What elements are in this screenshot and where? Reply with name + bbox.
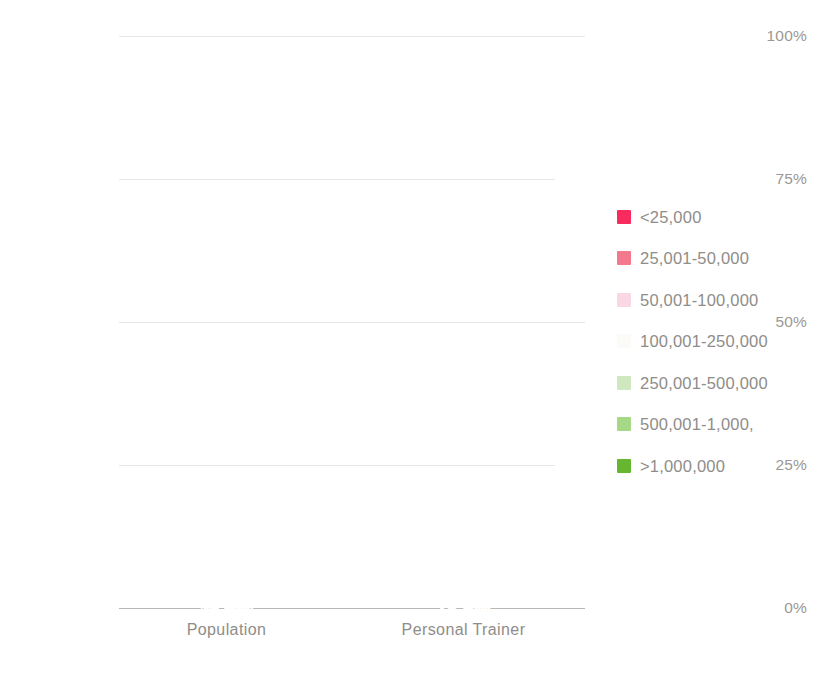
legend-swatch-icon	[617, 293, 631, 307]
x-axis-line-stub-right	[555, 608, 585, 609]
legend-item[interactable]: 50,001-100,000	[617, 279, 821, 321]
gridline-stub-right-100	[555, 36, 585, 37]
gridline-25	[133, 465, 555, 466]
legend-label: <25,000	[640, 209, 702, 226]
legend-swatch-icon	[617, 210, 631, 224]
legend-item[interactable]: 250,001-500,000	[617, 362, 821, 404]
bar-segment-value: 24,9%	[372, 598, 555, 620]
plot-area: 46,8%13,3%9,1%5,3%6,3%9,3% 15,0%12,3%11,…	[133, 36, 555, 609]
bar-segment-value: 9,3%	[133, 598, 320, 620]
y-tick-100: 100%	[717, 27, 807, 45]
legend: <25,00025,001-50,00050,001-100,000100,00…	[617, 196, 821, 487]
stacked-bar-chart: 100% 75% 50% 25% 0% 46,8%13,3%9,1%5,3%6,…	[0, 0, 821, 690]
legend-swatch-icon	[617, 459, 631, 473]
legend-item[interactable]: 100,001-250,000	[617, 321, 821, 363]
y-tick-75: 75%	[717, 170, 807, 188]
gridline-stub-100	[119, 36, 133, 37]
gridline-75	[133, 179, 555, 180]
legend-item[interactable]: 500,001-1,000,	[617, 404, 821, 446]
legend-label: 500,001-1,000,	[640, 416, 754, 433]
gridline-stub-25	[119, 465, 133, 466]
legend-swatch-icon	[617, 251, 631, 265]
legend-swatch-icon	[617, 376, 631, 390]
x-axis-line-stub	[119, 608, 133, 609]
y-tick-0: 0%	[717, 599, 807, 617]
legend-item[interactable]: >1,000,000	[617, 445, 821, 487]
gridline-50	[133, 322, 555, 323]
legend-label: 50,001-100,000	[640, 292, 758, 309]
legend-label: 25,001-50,000	[640, 250, 749, 267]
legend-swatch-icon	[617, 417, 631, 431]
gridline-stub-right-50	[555, 322, 585, 323]
x-label-personal-trainer: Personal Trainer	[372, 621, 555, 639]
gridline-100	[133, 36, 555, 37]
legend-item[interactable]: <25,000	[617, 196, 821, 238]
legend-item[interactable]: 25,001-50,000	[617, 238, 821, 280]
gridline-stub-50	[119, 322, 133, 323]
legend-swatch-icon	[617, 334, 631, 348]
legend-label: 100,001-250,000	[640, 333, 768, 350]
x-label-population: Population	[133, 621, 320, 639]
legend-label: 250,001-500,000	[640, 375, 768, 392]
gridline-stub-75	[119, 179, 133, 180]
legend-label: >1,000,000	[640, 458, 725, 475]
